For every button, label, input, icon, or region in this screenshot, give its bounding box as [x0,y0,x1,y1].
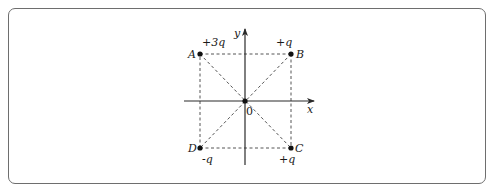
point-a-label: A [187,48,196,61]
point-c-charge: +q [279,153,295,166]
point-b [288,51,293,56]
origin-point [242,98,247,103]
point-b-label: B [295,48,304,61]
point-a-charge: +3q [202,36,225,49]
point-c [288,145,293,150]
point-d-label: D [187,142,197,155]
charge-diagram: y x 0 A +3q B +q C +q D -q [0,0,490,196]
point-d [197,145,202,150]
x-axis-label: x [307,103,314,116]
origin-label: 0 [246,105,253,118]
point-d-charge: -q [202,153,213,166]
point-c-label: C [295,142,304,155]
y-axis-label: y [233,27,241,40]
point-b-charge: +q [276,36,292,49]
point-a [197,51,202,56]
